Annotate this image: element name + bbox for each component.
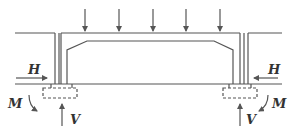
right-v-label: V [246, 112, 258, 127]
frame-diagram: H M V H M V [0, 0, 294, 136]
right-m-label: M [271, 96, 287, 111]
left-footing [43, 84, 77, 98]
left-v-label: V [70, 112, 82, 127]
distributed-load-arrows [85, 9, 220, 31]
right-footing [223, 84, 257, 98]
right-moment-arc-icon [259, 95, 268, 111]
frame-outline [61, 33, 240, 84]
right-h-label: H [267, 62, 281, 77]
left-m-label: M [7, 96, 23, 111]
left-moment-arc-icon [29, 95, 37, 111]
left-h-label: H [27, 62, 41, 77]
